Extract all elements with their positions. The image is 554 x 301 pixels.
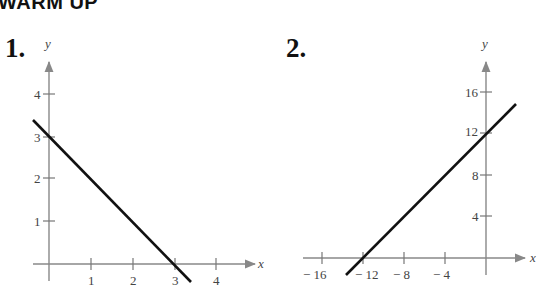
y-tick-16: 16 [465, 85, 479, 100]
x-axis-label: x [529, 250, 536, 265]
graph-2: x y − 16 − 12 − 8 − 4 4 8 12 16 [303, 36, 536, 282]
x-tick-neg12: − 12 [355, 267, 379, 282]
y-tick-8: 8 [472, 168, 479, 183]
x-tick-2: 2 [130, 273, 137, 288]
y-tick-3: 3 [34, 130, 41, 145]
graphs: x y 1 2 3 4 1 2 3 4 x y − 16 − 12 − 8 − … [0, 0, 554, 301]
x-tick-4: 4 [213, 273, 220, 288]
graph-1: x y 1 2 3 4 1 2 3 4 [33, 36, 264, 288]
line-plot [346, 104, 516, 275]
x-tick-neg8: − 8 [393, 267, 410, 282]
y-tick-2: 2 [34, 171, 41, 186]
y-tick-1: 1 [34, 214, 41, 229]
y-tick-4: 4 [34, 87, 41, 102]
y-tick-12: 12 [465, 124, 478, 139]
y-axis-label: y [43, 36, 51, 51]
x-axis-label: x [257, 256, 264, 271]
x-tick-neg16: − 16 [303, 267, 327, 282]
x-tick-neg4: − 4 [433, 267, 451, 282]
y-axis-label: y [480, 36, 488, 51]
x-tick-3: 3 [172, 273, 179, 288]
line-plot [33, 120, 191, 282]
y-tick-4: 4 [472, 209, 479, 224]
x-tick-1: 1 [88, 273, 95, 288]
